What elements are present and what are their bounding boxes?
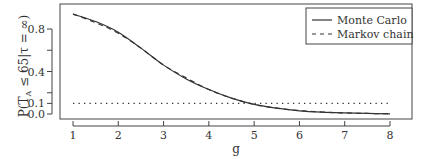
chart: 0.00.10.40.8 12345678 Monte Carlo Markov… — [0, 0, 421, 159]
x-tick-label: 6 — [296, 129, 303, 142]
x-axis-label: g — [232, 142, 240, 156]
x-tick-label: 1 — [70, 129, 77, 142]
legend-label-monte-carlo: Monte Carlo — [337, 14, 407, 27]
x-tick-label: 5 — [251, 129, 258, 142]
legend-label-markov-chain: Markov chain — [337, 28, 413, 41]
x-tick-label: 3 — [160, 129, 167, 142]
x-axis: 12345678 — [70, 121, 394, 142]
x-tick-label: 4 — [205, 129, 212, 142]
x-tick-label: 7 — [341, 129, 348, 142]
legend: Monte Carlo Markov chain — [306, 8, 413, 44]
x-tick-label: 2 — [115, 129, 122, 142]
y-axis-label: P(TA ≤ 65|τ = ∞) — [17, 15, 33, 118]
x-tick-label: 8 — [387, 129, 394, 142]
y-axis: 0.00.10.40.8 — [28, 23, 53, 121]
